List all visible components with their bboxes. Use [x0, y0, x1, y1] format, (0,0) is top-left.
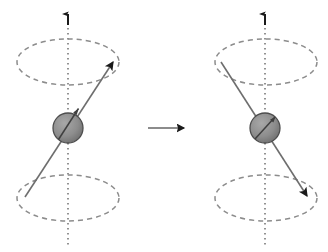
figure-canvas [0, 0, 328, 252]
upper-precession-circle-right [215, 39, 317, 85]
lower-precession-circle-right [215, 175, 317, 221]
right-panel-flipped-spin-state [215, 14, 317, 246]
nucleus-sphere-left [53, 113, 83, 143]
left-panel-initial-spin-state [17, 14, 119, 246]
spin-precession-figure [0, 0, 328, 252]
